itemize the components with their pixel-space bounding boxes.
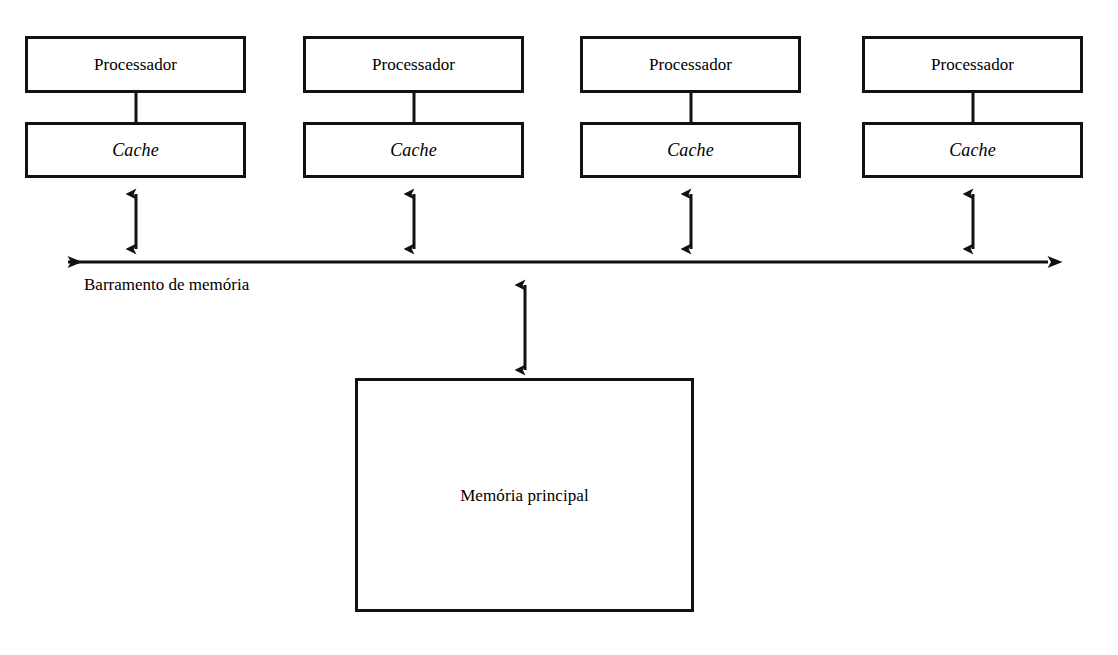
diagram-canvas: Processador Cache Processador Cache Proc… <box>0 0 1118 655</box>
cache-label-2: Cache <box>390 141 436 159</box>
cache-box-4[interactable]: Cache <box>862 122 1083 178</box>
memory-bus-label: Barramento de memória <box>84 276 249 293</box>
processor-label-1: Processador <box>94 56 177 73</box>
cache-label-1: Cache <box>112 141 158 159</box>
processor-label-2: Processador <box>372 56 455 73</box>
processor-box-4[interactable]: Processador <box>862 36 1083 93</box>
main-memory-label: Memória principal <box>460 487 589 504</box>
cache-box-3[interactable]: Cache <box>580 122 801 178</box>
processor-box-3[interactable]: Processador <box>580 36 801 93</box>
processor-box-1[interactable]: Processador <box>25 36 246 93</box>
main-memory-box[interactable]: Memória principal <box>355 378 694 612</box>
cache-label-4: Cache <box>949 141 995 159</box>
processor-label-3: Processador <box>649 56 732 73</box>
cache-label-3: Cache <box>667 141 713 159</box>
processor-box-2[interactable]: Processador <box>303 36 524 93</box>
cache-box-2[interactable]: Cache <box>303 122 524 178</box>
cache-box-1[interactable]: Cache <box>25 122 246 178</box>
processor-label-4: Processador <box>931 56 1014 73</box>
